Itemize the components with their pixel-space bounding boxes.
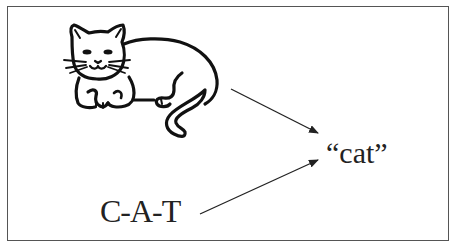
cat-drawing-icon — [64, 25, 217, 136]
arrow-picture-to-word — [231, 89, 318, 133]
spelling-label: C-A-T — [100, 193, 180, 230]
diagram-canvas — [0, 0, 456, 251]
word-label: “cat” — [326, 136, 388, 170]
arrow-spelling-to-word — [200, 160, 318, 214]
